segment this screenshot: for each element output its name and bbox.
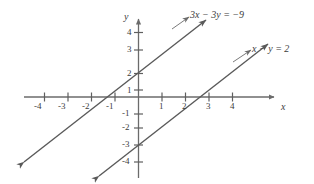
x-tick-label: -2: [82, 102, 90, 111]
x-tick-label: 3: [206, 102, 211, 111]
y-tick-label: -4: [122, 157, 130, 166]
y-axis: [134, 19, 143, 178]
x-tick-label: 1: [159, 102, 164, 111]
x-tick-label: 4: [230, 102, 235, 111]
y-tick-label: -2: [122, 123, 130, 132]
x-tick-label: -1: [106, 102, 114, 111]
x-tick-label: -3: [58, 102, 66, 111]
equation-label-line-1: 3x − 3y = −9: [190, 10, 244, 20]
coordinate-plane-figure: -4 -3 -2 -1 1 2 3 4 4 3 2 1 -1 -2 -3 -4 …: [0, 0, 314, 184]
x-tick-label: -4: [34, 102, 42, 111]
line-3x-minus-3y-equals-minus9: [24, 20, 206, 162]
graph-canvas: [0, 0, 314, 184]
y-axis-label: y: [124, 12, 128, 22]
label-leader-line-1: [172, 17, 189, 29]
y-tick-label: 3: [127, 45, 132, 54]
y-tick-label: -1: [122, 109, 130, 118]
y-tick-label: 4: [127, 28, 132, 37]
x-tick-label: 2: [182, 102, 187, 111]
y-tick-label: 1: [127, 86, 132, 95]
equation-label-line-2: x − y = 2: [252, 44, 289, 54]
y-tick-label: 2: [127, 69, 132, 78]
y-tick-label: -3: [122, 140, 130, 149]
x-axis-label: x: [281, 102, 285, 112]
